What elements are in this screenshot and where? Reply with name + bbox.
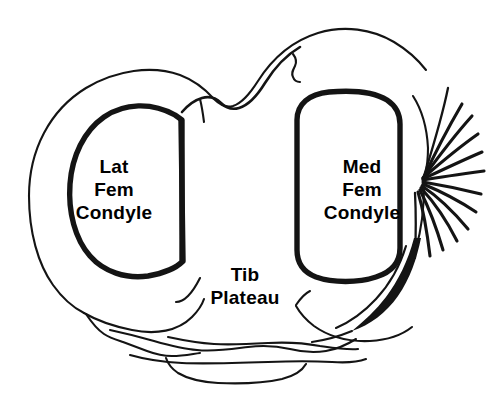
lateral-condyle-medial-edge (181, 121, 183, 261)
ligament-fiber-2 (424, 104, 462, 177)
label-medial-line-2: Fem (300, 178, 424, 201)
label-lateral-line-3: Condyle (52, 201, 176, 224)
tibial-lower-contour-a (86, 314, 200, 356)
label-medial-line-1: Med (300, 155, 424, 178)
label-medial-femoral-condyle: Med Fem Condyle (300, 155, 424, 224)
label-tibial-line-1: Tib (185, 263, 305, 286)
label-lateral-line-2: Fem (52, 178, 176, 201)
label-tibial-plateau: Tib Plateau (185, 263, 305, 309)
label-lateral-line-1: Lat (52, 155, 176, 178)
eminence-hook-detail (292, 54, 300, 82)
anatomical-diagram: Lat Fem Condyle Med Fem Condyle Tib Plat… (0, 0, 488, 410)
label-lateral-femoral-condyle: Lat Fem Condyle (52, 155, 176, 224)
notch-spur (200, 99, 204, 122)
label-medial-line-3: Condyle (300, 201, 424, 224)
label-tibial-line-2: Plateau (185, 286, 305, 309)
tibial-plateau-rim-right (296, 306, 412, 341)
